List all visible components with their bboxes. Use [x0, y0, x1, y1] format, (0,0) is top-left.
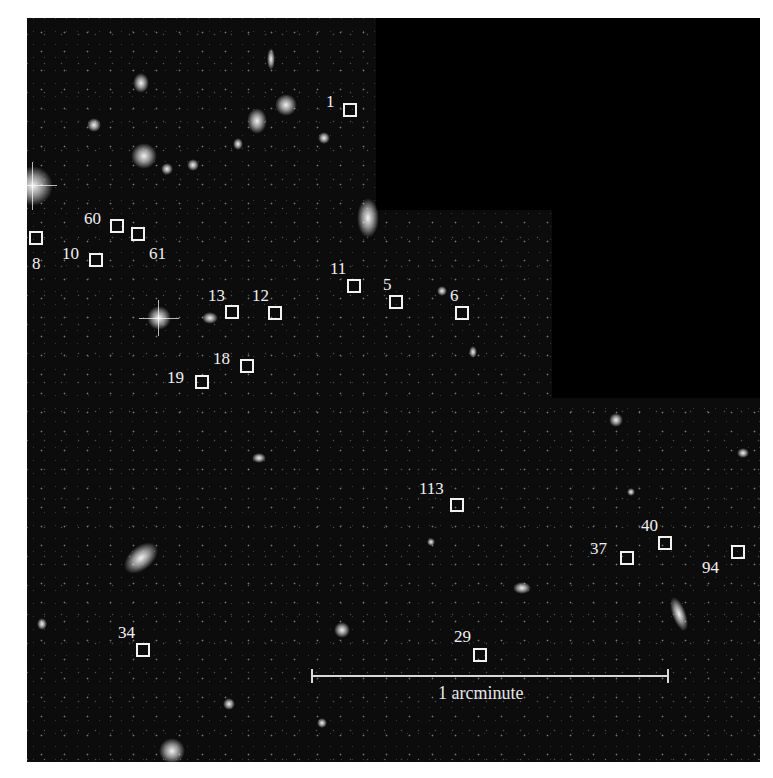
star: [317, 718, 327, 728]
marker-label-12: 12: [252, 287, 269, 304]
galaxy: [513, 582, 531, 594]
scale-bar: [311, 675, 669, 677]
galaxy: [159, 738, 185, 762]
scale-bar-right-tick: [667, 669, 669, 683]
marker-label-113: 113: [419, 480, 444, 497]
galaxy: [187, 159, 199, 171]
marker-box-10: [89, 253, 103, 267]
marker-box-19: [195, 375, 209, 389]
marker-label-6: 6: [450, 287, 459, 304]
marker-box-11: [347, 279, 361, 293]
galaxy-edge: [357, 198, 379, 238]
marker-label-60: 60: [84, 210, 101, 227]
marker-box-12: [268, 306, 282, 320]
marker-box-13: [225, 305, 239, 319]
galaxy: [267, 48, 275, 70]
marker-label-10: 10: [62, 245, 79, 262]
galaxy: [161, 163, 173, 175]
marker-label-11: 11: [330, 260, 346, 277]
marker-box-6: [455, 306, 469, 320]
star: [627, 488, 635, 496]
marker-box-29: [473, 648, 487, 662]
marker-box-61: [131, 227, 145, 241]
galaxy: [247, 108, 267, 134]
marker-label-18: 18: [213, 350, 230, 367]
unobserved-region-top: [376, 18, 760, 210]
star: [318, 132, 330, 144]
scale-bar-label: 1 arcminute: [438, 683, 523, 704]
marker-box-37: [620, 551, 634, 565]
galaxy: [87, 118, 101, 132]
star: [427, 538, 435, 546]
marker-label-34: 34: [118, 624, 135, 641]
galaxy: [334, 622, 350, 638]
marker-box-40: [658, 536, 672, 550]
marker-label-8: 8: [32, 255, 41, 272]
marker-box-34: [136, 643, 150, 657]
marker-label-19: 19: [167, 369, 184, 386]
scale-bar-left-tick: [311, 669, 313, 683]
marker-box-18: [240, 359, 254, 373]
marker-label-13: 13: [208, 287, 225, 304]
marker-label-40: 40: [641, 517, 658, 534]
star-spike: [158, 300, 159, 336]
star: [223, 698, 235, 710]
galaxy: [133, 73, 149, 93]
star: [469, 346, 477, 358]
unobserved-region-right: [552, 210, 760, 398]
marker-box-113: [450, 498, 464, 512]
marker-box-1: [343, 103, 357, 117]
galaxy: [275, 94, 297, 116]
marker-label-29: 29: [454, 628, 471, 645]
galaxy: [252, 453, 266, 463]
marker-label-94: 94: [702, 559, 719, 576]
marker-box-5: [389, 295, 403, 309]
marker-label-5: 5: [383, 276, 392, 293]
marker-label-1: 1: [326, 93, 335, 110]
star: [737, 448, 749, 458]
marker-box-8: [29, 231, 43, 245]
marker-box-94: [731, 545, 745, 559]
marker-label-37: 37: [590, 540, 607, 557]
marker-box-60: [110, 219, 124, 233]
star: [437, 286, 447, 296]
star: [37, 618, 47, 630]
star: [609, 413, 623, 427]
galaxy: [202, 312, 218, 324]
galaxy: [131, 143, 157, 169]
star-spike: [139, 318, 179, 319]
star-spike: [32, 162, 33, 210]
marker-label-61: 61: [149, 245, 166, 262]
galaxy: [233, 138, 243, 150]
